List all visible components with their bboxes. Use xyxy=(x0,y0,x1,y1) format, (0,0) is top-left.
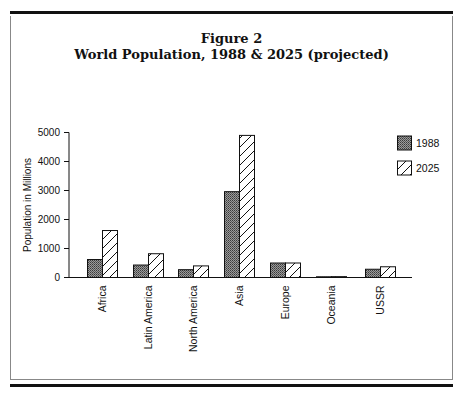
category-label-ussr: USSR xyxy=(374,285,386,315)
y-tick-label: 1000 xyxy=(38,243,61,254)
category-labels: AfricaLatin AmericaNorth AmericaAsiaEuro… xyxy=(96,285,386,352)
bar-oceania-2025 xyxy=(332,277,347,278)
legend-label-1988: 1988 xyxy=(416,137,440,149)
bar-latin-america-2025 xyxy=(149,254,164,278)
bar-ussr-1988 xyxy=(366,269,381,277)
y-tick-label: 4000 xyxy=(38,156,61,167)
bar-asia-2025 xyxy=(240,135,255,277)
bar-asia-1988 xyxy=(225,192,240,278)
bar-oceania-1988 xyxy=(317,277,332,278)
bar-europe-2025 xyxy=(286,263,301,278)
category-label-latin-america: Latin America xyxy=(142,285,154,349)
legend-swatch-1988 xyxy=(398,136,412,150)
y-tick-label: 2000 xyxy=(38,214,61,225)
bar-latin-america-1988 xyxy=(134,265,149,277)
category-label-oceania: Oceania xyxy=(325,285,337,324)
bar-africa-1988 xyxy=(88,260,103,278)
y-tick-label: 5000 xyxy=(38,127,61,138)
bar-europe-1988 xyxy=(271,263,286,278)
y-axis-label: Population in Millions xyxy=(22,158,33,252)
y-tick-label: 3000 xyxy=(38,185,61,196)
legend: 19882025 xyxy=(398,136,440,175)
category-label-asia: Asia xyxy=(233,285,245,306)
legend-label-2025: 2025 xyxy=(416,162,440,174)
y-tick-label: 0 xyxy=(54,272,60,283)
bar-north-america-1988 xyxy=(179,270,194,278)
bar-africa-2025 xyxy=(103,231,118,278)
axes: 010002000300040005000Population in Milli… xyxy=(22,127,412,283)
category-label-africa: Africa xyxy=(96,285,108,312)
category-label-europe: Europe xyxy=(279,285,291,319)
bar-north-america-2025 xyxy=(194,266,209,278)
bar-chart: 010002000300040005000Population in Milli… xyxy=(0,0,464,393)
bar-ussr-2025 xyxy=(381,267,396,278)
category-label-north-america: North America xyxy=(187,285,199,352)
legend-swatch-2025 xyxy=(398,161,412,175)
bars xyxy=(88,135,396,277)
